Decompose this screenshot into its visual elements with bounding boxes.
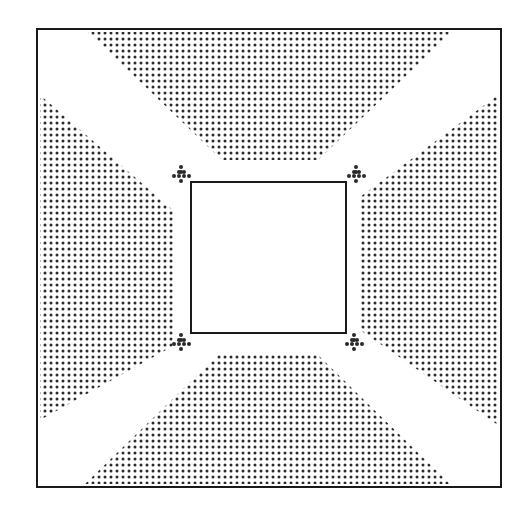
inner-square-opening: [191, 182, 346, 333]
right-stipple-region: [360, 95, 498, 425]
top-right-cross-marker: [347, 165, 366, 183]
top-stipple-region: [88, 32, 452, 160]
top-left-cross-marker: [172, 165, 191, 183]
stipple-diagram: [0, 0, 520, 511]
bottom-right-cross-marker: [345, 333, 364, 351]
left-stipple-region: [40, 95, 175, 420]
bottom-stipple-region: [85, 355, 450, 484]
